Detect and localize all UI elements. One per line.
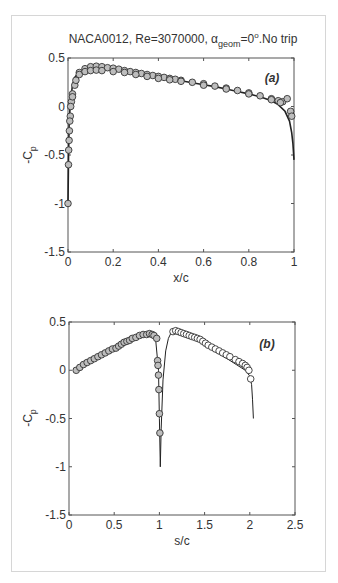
x-tick-label: 2 bbox=[246, 518, 253, 532]
chart-panel-b: 00.511.522.50.50-0.5-1-1.5 (b) s/c -Cp bbox=[21, 315, 304, 548]
data-point bbox=[65, 161, 72, 168]
y-tick-label: -0.5 bbox=[45, 412, 66, 426]
data-point bbox=[110, 68, 117, 75]
y-tick-label: -0.5 bbox=[44, 148, 65, 162]
y-axis-label-a: -Cp bbox=[21, 146, 38, 164]
x-axis-label-b: s/c bbox=[174, 534, 189, 548]
x-tick-label: 0.6 bbox=[195, 255, 212, 269]
chart-panel-a: 00.20.40.60.810.50-0.5-1-1.5 (a) x/c -Cp bbox=[21, 51, 298, 285]
y-tick-label: -1.5 bbox=[45, 508, 66, 522]
data-point bbox=[67, 103, 74, 110]
data-point bbox=[288, 113, 295, 120]
y-tick-label: -1 bbox=[54, 197, 65, 211]
data-point bbox=[246, 91, 253, 98]
data-point bbox=[66, 137, 73, 144]
data-point bbox=[156, 386, 163, 393]
data-point bbox=[189, 79, 196, 86]
panel-label-b: (b) bbox=[259, 337, 274, 351]
y-tick-label: 0.5 bbox=[49, 315, 66, 329]
data-point bbox=[155, 362, 162, 369]
data-point bbox=[157, 430, 164, 437]
data-point bbox=[69, 94, 76, 101]
y-tick-label: 0.5 bbox=[48, 51, 65, 65]
y-axis-label-b: -Cp bbox=[21, 409, 38, 427]
x-tick-label: 1.5 bbox=[196, 518, 213, 532]
data-point bbox=[277, 99, 284, 106]
plot-area-a bbox=[68, 58, 294, 252]
y-tick-label: 0 bbox=[58, 100, 65, 114]
x-tick-label: 0.2 bbox=[105, 255, 122, 269]
data-point bbox=[133, 71, 140, 78]
y-tick-label: -1.5 bbox=[44, 245, 65, 259]
figure: NACA0012, Re=3070000, αgeom=0o.No trip 0… bbox=[0, 0, 338, 583]
data-point bbox=[156, 410, 163, 417]
data-point bbox=[223, 86, 230, 93]
x-tick-label: 2.5 bbox=[287, 518, 304, 532]
x-tick-label: 1 bbox=[291, 255, 298, 269]
data-point bbox=[121, 69, 128, 76]
x-tick-label: 0.5 bbox=[106, 518, 123, 532]
data-point bbox=[67, 118, 74, 125]
y-tick-label: 0 bbox=[59, 363, 66, 377]
panel-label-a: (a) bbox=[265, 71, 280, 85]
x-axis-label-a: x/c bbox=[173, 271, 188, 285]
data-point bbox=[268, 96, 275, 103]
y-tick-label: -1 bbox=[55, 460, 66, 474]
x-tick-label: 0.8 bbox=[240, 255, 257, 269]
figure-title: NACA0012, Re=3070000, αgeom=0o.No trip bbox=[69, 31, 298, 49]
data-point bbox=[66, 128, 73, 135]
data-point bbox=[155, 372, 162, 379]
data-point bbox=[144, 73, 151, 80]
data-point bbox=[65, 147, 72, 154]
x-tick-label: 0 bbox=[65, 255, 72, 269]
data-point bbox=[200, 82, 207, 89]
x-tick-label: 0.4 bbox=[150, 255, 167, 269]
data-point bbox=[155, 75, 162, 82]
data-point bbox=[257, 93, 264, 100]
x-tick-label: 0 bbox=[66, 518, 73, 532]
data-point bbox=[234, 87, 241, 94]
data-point bbox=[284, 95, 291, 102]
data-point bbox=[65, 200, 72, 207]
x-tick-label: 1 bbox=[156, 518, 163, 532]
data-point bbox=[246, 367, 253, 374]
data-point bbox=[166, 77, 173, 84]
data-point bbox=[153, 335, 160, 342]
data-point bbox=[99, 67, 106, 74]
data-point bbox=[178, 78, 185, 85]
data-point bbox=[247, 376, 254, 383]
data-point bbox=[212, 83, 219, 90]
